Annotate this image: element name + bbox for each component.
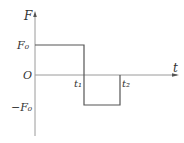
t1-label: t₁ (74, 78, 82, 89)
t2-label: t₂ (122, 78, 130, 89)
force-time-diagram: F t O F₀ −F₀ t₁ t₂ (0, 0, 184, 143)
positive-level-label: F₀ (16, 39, 30, 52)
negative-level-label: −F₀ (11, 101, 33, 114)
origin-label: O (23, 69, 32, 82)
x-axis-label: t (173, 61, 178, 75)
y-axis-arrow-icon (33, 11, 37, 17)
y-axis-label: F (23, 9, 33, 23)
